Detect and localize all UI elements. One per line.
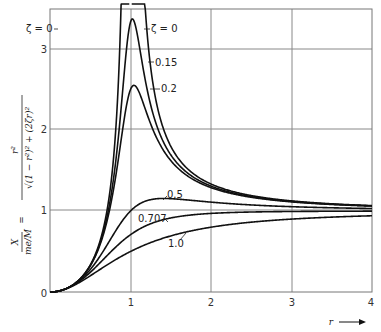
svg-text:me/M: me/M	[23, 228, 33, 255]
y-tick-0: 0	[41, 288, 47, 299]
y-tick-2: 2	[41, 124, 47, 135]
x-axis-label: r	[329, 317, 366, 327]
label-zeta-015: 0.15	[155, 57, 177, 68]
frequency-response-chart: 0 1 2 3 4 1 2 3 r X me/M = r² √(1 − r²)²…	[0, 0, 381, 332]
label-zeta0-left: ζ = 0	[26, 23, 53, 34]
svg-text:√(1 − r²)² + (2ζr)²: √(1 − r²)² + (2ζr)²	[24, 107, 34, 189]
label-zeta0-right: ζ = 0	[151, 23, 178, 34]
x-axis-title: r	[329, 317, 334, 327]
y-tick-3: 3	[41, 44, 47, 55]
arrow-right-icon	[359, 319, 366, 325]
y-tick-labels: 1 2 3	[41, 44, 47, 216]
x-tick-4: 4	[368, 297, 374, 308]
x-tick-2: 2	[208, 297, 214, 308]
curve-zeta-0	[132, 4, 372, 206]
x-tick-1: 1	[128, 297, 134, 308]
x-tick-3: 3	[289, 297, 295, 308]
label-zeta-10: 1.0	[168, 238, 184, 249]
svg-text:r²: r²	[10, 146, 20, 154]
label-zeta-0707: 0.707	[138, 213, 167, 224]
label-zeta-02: 0.2	[161, 83, 177, 94]
x-tick-labels: 0 1 2 3 4	[41, 288, 375, 308]
label-zeta-05: 0.5	[167, 189, 183, 200]
y-tick-1: 1	[41, 205, 47, 216]
svg-text:X: X	[10, 238, 20, 246]
y-axis-label: X me/M = r² √(1 − r²)² + (2ζr)²	[10, 95, 34, 255]
svg-text:=: =	[17, 216, 27, 224]
